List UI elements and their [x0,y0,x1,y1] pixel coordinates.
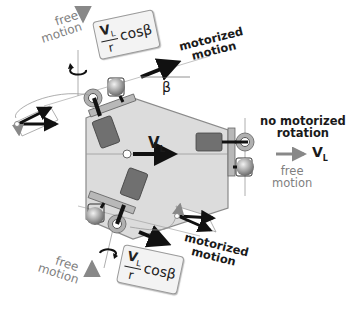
bottom-formula-numerator: VL [124,248,144,270]
top-formula-cos: cosβ [118,21,153,43]
right-free-motion-label: free motion [272,166,312,189]
bottom-formula-cos: cosβ [142,260,177,282]
top-formula-fraction: VL r [98,20,121,55]
robot-kinematics-diagram: free motion VL r cosβ motorized motion β… [0,0,347,314]
bottom-formula-fraction: VL r [121,248,144,283]
bottom-num-sub: L [135,259,141,269]
top-formula-denominator: r [107,40,115,55]
right-label-line2: rotation [260,128,346,140]
right-v-sub: L [323,154,328,163]
right-velocity-label: VL [312,145,328,163]
top-num-sub: L [110,29,116,39]
center-v: V [148,134,160,152]
right-v: V [312,144,323,160]
center-v-sub: L [160,144,166,154]
bottom-formula-denominator: r [127,267,135,282]
beta-angle-label: β [162,80,171,94]
center-velocity-label: VL [148,136,165,154]
right-free-line2: motion [272,178,312,190]
top-formula-numerator: VL [98,20,118,42]
right-no-motorized-label: no motorized rotation [260,116,346,139]
